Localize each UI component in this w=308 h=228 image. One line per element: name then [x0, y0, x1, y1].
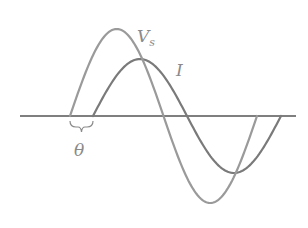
phase-diagram: Vs I θ	[0, 0, 308, 228]
phase-angle-label: θ	[74, 140, 84, 160]
phase-brace-icon	[70, 121, 93, 132]
current-label: I	[175, 60, 183, 80]
voltage-label: Vs	[137, 26, 155, 49]
